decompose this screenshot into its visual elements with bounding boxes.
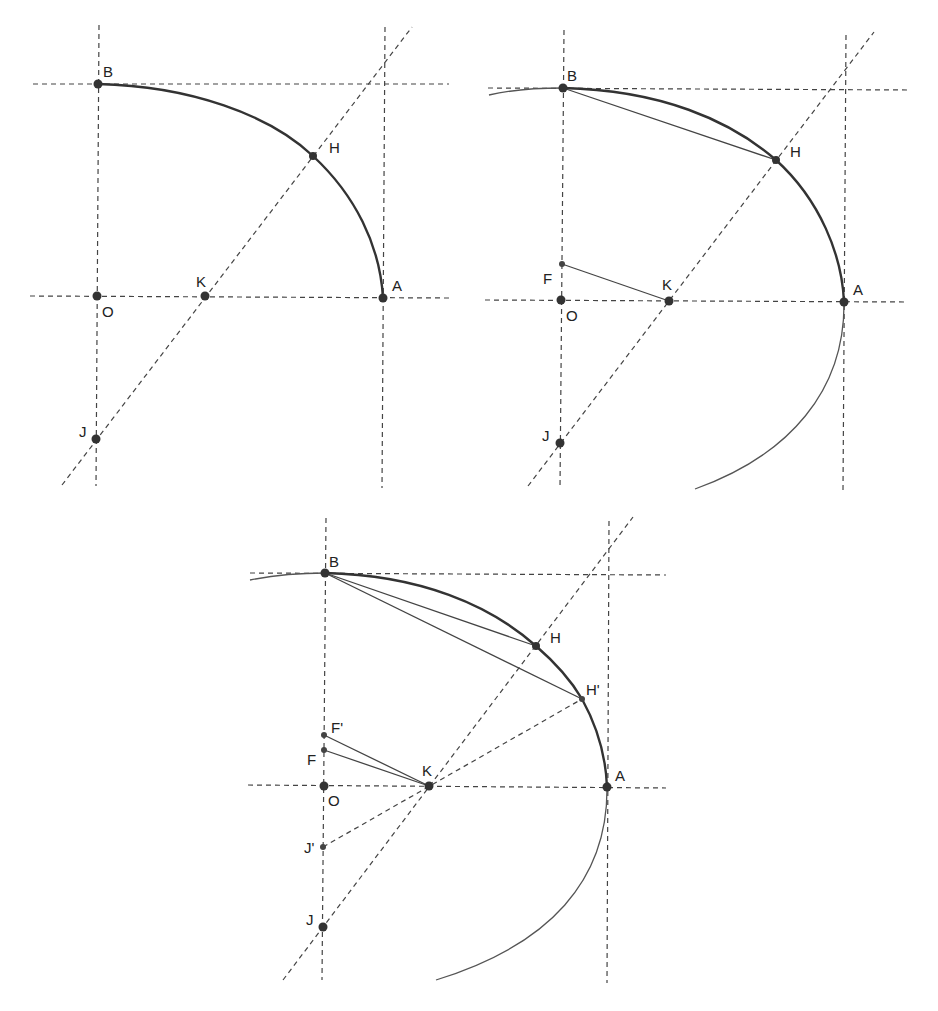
label-O: O — [328, 792, 340, 809]
vertical-line-through-A — [843, 35, 846, 490]
label-J: J — [79, 423, 87, 440]
diagonal-line-JKH — [283, 517, 633, 980]
label-H: H — [550, 629, 561, 646]
label-B: B — [329, 553, 339, 570]
diagonal-line-JpKHp — [323, 699, 582, 847]
ellipse-extension-left — [250, 573, 325, 580]
point-O — [557, 296, 566, 305]
ellipse-extension-left — [489, 88, 563, 95]
label-J-prime: J' — [304, 839, 315, 856]
chord-BHp — [325, 573, 582, 699]
point-H — [532, 642, 540, 650]
chord-BH — [325, 573, 536, 646]
diagonal-line-JKH — [62, 27, 412, 485]
point-F — [321, 747, 327, 753]
point-J — [92, 435, 101, 444]
label-F: F — [543, 270, 552, 287]
label-O: O — [102, 303, 114, 320]
label-B: B — [567, 67, 577, 84]
label-K: K — [196, 273, 206, 290]
vertical-line-through-A — [607, 521, 609, 983]
point-K — [201, 292, 210, 301]
point-J — [556, 439, 565, 448]
ellipse-extension-bottom — [695, 302, 844, 489]
label-J: J — [306, 911, 314, 928]
point-K — [665, 297, 674, 306]
label-J: J — [542, 427, 550, 444]
point-B — [94, 80, 103, 89]
label-B: B — [103, 63, 113, 80]
point-H — [309, 152, 317, 160]
point-A — [603, 783, 612, 792]
label-H-prime: H' — [586, 681, 600, 698]
segment-FpK — [324, 735, 429, 786]
diagram-1: B H K A O J — [30, 25, 449, 488]
segment-FK — [324, 750, 429, 786]
point-O — [320, 782, 329, 791]
diagram-3: B H H' F' F K A O J' J — [248, 517, 666, 983]
label-A: A — [853, 281, 863, 298]
point-J-prime — [320, 844, 326, 850]
point-J — [319, 923, 328, 932]
point-H-prime — [579, 696, 585, 702]
label-H: H — [329, 139, 340, 156]
point-A — [379, 294, 388, 303]
chord-BH — [563, 88, 776, 160]
segment-FK — [562, 264, 669, 301]
point-H — [772, 156, 780, 164]
point-F-prime — [321, 732, 327, 738]
point-A — [840, 298, 849, 307]
label-O: O — [566, 307, 578, 324]
label-H: H — [790, 143, 801, 160]
point-F — [559, 261, 565, 267]
point-O — [93, 292, 102, 301]
vertical-line-through-A — [382, 27, 385, 488]
label-A: A — [615, 767, 625, 784]
vertical-line-through-O — [560, 30, 564, 488]
ellipse-arc-BHA — [325, 573, 607, 787]
figure-canvas: B H K A O J B H F K A O J — [0, 0, 938, 1011]
label-F: F — [307, 751, 316, 768]
diagram-2: B H F K A O J — [485, 30, 910, 490]
ellipse-extension-bottom — [436, 787, 607, 980]
ellipse-arc-BHA — [98, 84, 383, 298]
label-K: K — [422, 762, 432, 779]
vertical-line-through-O — [96, 25, 99, 486]
diagonal-line-JKH — [528, 32, 874, 486]
label-K: K — [662, 276, 672, 293]
label-F-prime: F' — [331, 719, 343, 736]
ellipse-arc-BHA — [563, 88, 844, 302]
point-K — [425, 782, 434, 791]
point-B — [559, 84, 568, 93]
label-A: A — [392, 277, 402, 294]
